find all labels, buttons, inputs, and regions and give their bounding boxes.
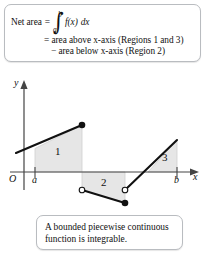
integrability-note-line-2: function is integrable. — [45, 233, 176, 245]
y-axis-label: y — [14, 77, 18, 88]
open-endpoint-dot-2 — [122, 187, 128, 193]
function-graph: y x O a b 1 2 3 — [0, 66, 205, 216]
formula-line-2: = area above x-axis (Regions 1 and 3) — [44, 35, 196, 46]
formula-line-1: Net area = b ∫ a f(x) dx — [11, 10, 196, 34]
net-area-formula-callout: Net area = b ∫ a f(x) dx = area above x-… — [4, 4, 201, 62]
integrability-note-line-1: A bounded piecewise continuous — [45, 221, 176, 233]
y-axis-arrowhead — [20, 80, 27, 89]
x-axis-label: x — [193, 171, 197, 182]
region-label-3: 3 — [162, 151, 168, 163]
region-label-1: 1 — [55, 145, 61, 157]
tick-label-b: b — [174, 174, 179, 185]
definite-integral: b ∫ a — [50, 10, 65, 34]
differential: dx — [81, 17, 90, 28]
integrability-note-callout: A bounded piecewise continuous function … — [36, 215, 183, 250]
integral-lower-limit: a — [53, 24, 57, 35]
closed-endpoint-dot-2 — [122, 200, 129, 207]
integrand: f(x) — [65, 17, 78, 28]
tick-label-a: a — [32, 174, 37, 185]
region-label-2: 2 — [101, 176, 107, 188]
origin-label: O — [9, 173, 16, 184]
closed-endpoint-dot-1 — [79, 122, 86, 129]
net-area-label: Net area — [11, 17, 42, 28]
open-endpoint-dot-1 — [79, 187, 85, 193]
formula-line-3: − area below x-axis (Region 2) — [51, 46, 196, 57]
